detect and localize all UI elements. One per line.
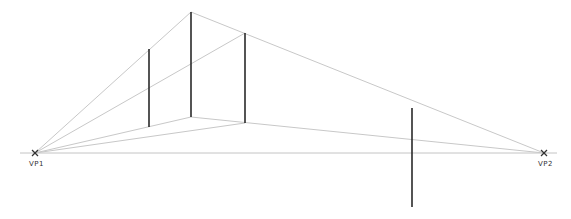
perspective-diagram: VP1 VP2 (0, 0, 571, 219)
vp1-label: VP1 (29, 160, 44, 168)
vp1-guide-to-top-corner (35, 12, 191, 153)
vp1-guide-to-right-top (35, 33, 245, 153)
vp1-guide-to-bottom-corner (35, 117, 191, 153)
vp2-guide-to-bottom-corner (191, 117, 544, 153)
vp2-guide-to-top-corner (191, 12, 544, 153)
vp1-guide-to-right-bottom (35, 123, 245, 153)
vp2-label: VP2 (538, 160, 553, 168)
